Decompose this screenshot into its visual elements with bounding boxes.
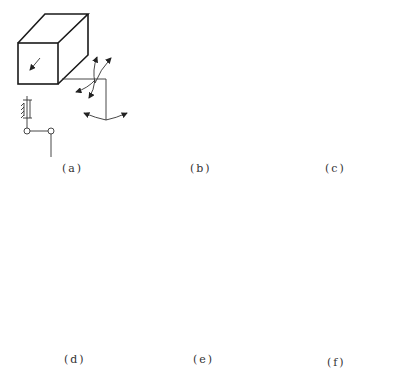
panel-label-e: (e) — [193, 353, 214, 366]
panel-label-a: (a) — [62, 162, 83, 175]
panel-label-f: (f) — [327, 356, 346, 369]
kinematic-symbol-a — [21, 96, 54, 157]
panel-a — [18, 14, 127, 157]
wrist-joint-a — [62, 57, 127, 120]
robot-wrist-configurations-diagram — [0, 0, 411, 380]
cube-a — [18, 14, 88, 84]
direction-arrow-icon — [30, 58, 40, 70]
panel-label-c: (c) — [325, 162, 346, 175]
panel-label-d: (d) — [64, 353, 86, 366]
panel-label-b: (b) — [190, 162, 212, 175]
